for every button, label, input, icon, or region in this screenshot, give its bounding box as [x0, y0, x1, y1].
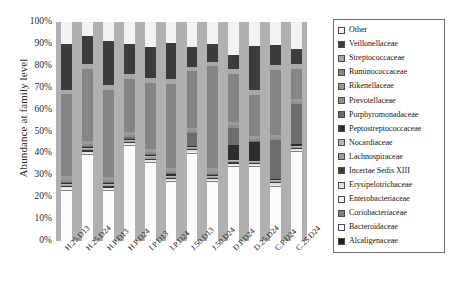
legend-swatch-icon [338, 224, 345, 231]
legend-item-label: Nocardiaceae [349, 139, 393, 147]
legend-item-ruminococcaceae[interactable]: Ruminococcaceae [338, 65, 441, 79]
legend-swatch-icon [338, 55, 345, 62]
x-axis-tick-C.25.D24: C.25.D24 [294, 224, 322, 252]
legend-swatch-icon [338, 111, 345, 118]
legend-item-enterobacteriaceae[interactable]: Enterobacteriaceae [338, 192, 441, 206]
legend-item-label: Erysipelotrichaceae [349, 181, 412, 189]
legend-item-label: Bacteroidaceae [349, 223, 398, 231]
legend-item-label: Rikenellaceae [349, 82, 394, 90]
legend-item-label: Porphyromonadaceae [349, 111, 418, 119]
legend-item-nocardiaceae[interactable]: Nocardiaceae [338, 136, 441, 150]
figure: Abundance at family level 100%90%80%70%6… [0, 0, 450, 301]
legend-swatch-icon [338, 41, 345, 48]
legend-swatch-icon [338, 210, 345, 217]
legend-item-incertae-sedis-xiii[interactable]: Incertae Sedis XIII [338, 164, 441, 178]
legend-swatch-icon [338, 97, 345, 104]
legend-item-peptostreptococcaceae[interactable]: Peptostreptococcaceae [338, 122, 441, 136]
legend-item-coriobacteriaceae[interactable]: Coriobacteriaceae [338, 206, 441, 220]
legend-item-label: Prevotellaceae [349, 97, 396, 105]
legend-item-streptococcaceae[interactable]: Streptococcaceae [338, 51, 441, 65]
legend-item-label: Incertae Sedis XIII [349, 167, 410, 175]
legend-item-label: Enterobacteriaceae [349, 195, 410, 203]
legend-item-porphyromonadaceae[interactable]: Porphyromonadaceae [338, 108, 441, 122]
legend-swatch-icon [338, 196, 345, 203]
x-axis-tick-I.P.D24: I.P.D24 [168, 229, 191, 252]
legend-swatch-icon [338, 125, 345, 132]
legend-swatch-icon [338, 69, 345, 76]
legend-swatch-icon [338, 182, 345, 189]
legend-swatch-icon [338, 83, 345, 90]
legend-item-erysipelotrichaceae[interactable]: Erysipelotrichaceae [338, 178, 441, 192]
legend-item-rikenellaceae[interactable]: Rikenellaceae [338, 79, 441, 93]
legend-item-alcaligenaceae[interactable]: Alcaligenaceae [338, 234, 441, 248]
legend-item-label: Peptostreptococcaceae [349, 125, 421, 133]
legend-swatch-icon [338, 167, 345, 174]
legend-item-label: Veillonellaceae [349, 40, 398, 48]
x-axis-tick-H.P.D24: H.P.D24 [126, 227, 152, 253]
legend-item-other[interactable]: Other [338, 23, 441, 37]
legend-swatch-icon [338, 238, 345, 245]
legend-swatch-icon [338, 139, 345, 146]
legend-swatch-icon [338, 153, 345, 160]
legend-item-label: Alcaligenaceae [349, 237, 398, 245]
legend: OtherVeillonellaceaeStreptococcaceaeRumi… [333, 19, 445, 253]
legend-item-lachnospiraceae[interactable]: Lachnospiraceae [338, 150, 441, 164]
legend-item-label: Lachnospiraceae [349, 153, 403, 161]
legend-item-label: Coriobacteriaceae [349, 209, 407, 217]
legend-item-bacteroidaceae[interactable]: Bacteroidaceae [338, 220, 441, 234]
legend-item-label: Streptococcaceae [349, 54, 405, 62]
legend-item-prevotellaceae[interactable]: Prevotellaceae [338, 93, 441, 107]
legend-item-veillonellaceae[interactable]: Veillonellaceae [338, 37, 441, 51]
legend-swatch-icon [338, 27, 345, 34]
legend-item-label: Other [349, 26, 367, 34]
legend-item-label: Ruminococcaceae [349, 68, 407, 76]
